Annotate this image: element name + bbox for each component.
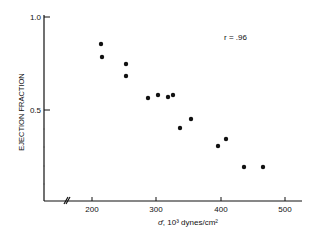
data-points	[99, 42, 265, 169]
data-point	[146, 96, 150, 100]
data-point	[216, 144, 220, 148]
x-tick-label-400: 400	[214, 205, 228, 214]
data-point	[171, 93, 175, 97]
y-tick-label-0.5: 0.5	[30, 106, 42, 115]
x-tick-label-300: 300	[149, 205, 163, 214]
x-axis-label-units: , 10³ dynes/cm²	[163, 218, 218, 227]
data-point	[124, 62, 128, 66]
data-point	[166, 95, 170, 99]
correlation-annotation: r = .96	[224, 33, 247, 42]
data-point	[224, 137, 228, 141]
data-point	[99, 42, 103, 46]
data-point	[242, 165, 246, 169]
data-point	[189, 117, 193, 121]
data-point	[178, 126, 182, 130]
y-axis-label: EJECTION FRACTION	[17, 73, 26, 151]
data-point	[261, 165, 265, 169]
data-point	[156, 93, 160, 97]
data-point	[124, 74, 128, 78]
x-tick-label-500: 500	[278, 205, 292, 214]
y-tick-label-1.0: 1.0	[30, 13, 42, 22]
data-point	[100, 55, 104, 59]
x-tick-label-200: 200	[85, 205, 99, 214]
scatter-chart: 1.0 0.5 200 300 400 500 EJECTION FRACTIO…	[0, 0, 314, 236]
x-axis-label: σ̄, 10³ dynes/cm²	[158, 218, 218, 227]
